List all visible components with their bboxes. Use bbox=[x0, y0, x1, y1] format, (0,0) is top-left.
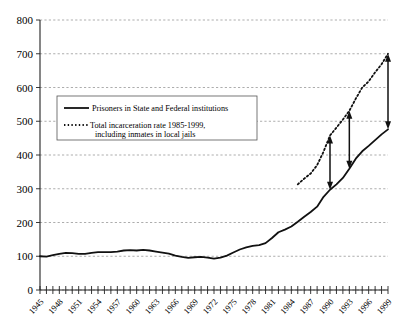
x-tick-label: 1978 bbox=[239, 297, 258, 316]
chart-container: 0100200300400500600700800 19451948195119… bbox=[0, 0, 394, 329]
series-total-incarceration-rate bbox=[298, 54, 388, 185]
gridlines bbox=[40, 20, 388, 290]
y-tick-label: 200 bbox=[17, 217, 34, 229]
x-tick-label: 1954 bbox=[85, 296, 104, 316]
gap-arrow-1999 bbox=[385, 54, 391, 130]
gap-annotation-arrows bbox=[327, 54, 391, 190]
x-tick-label: 1975 bbox=[220, 297, 239, 316]
x-tick-label: 1987 bbox=[297, 297, 316, 316]
incarceration-rate-line-chart: 0100200300400500600700800 19451948195119… bbox=[0, 0, 394, 329]
y-tick-label: 600 bbox=[17, 82, 34, 94]
x-axis-tick-labels: 1945194819511954195719601963196619691972… bbox=[27, 296, 394, 316]
y-tick-label: 300 bbox=[17, 183, 34, 195]
y-axis-tick-labels: 0100200300400500600700800 bbox=[17, 14, 34, 296]
y-tick-label: 100 bbox=[17, 250, 34, 262]
x-tick-label: 1966 bbox=[162, 297, 181, 316]
legend-label-total-rate-line2: including inmates in local jails bbox=[95, 130, 196, 139]
x-tick-label: 1981 bbox=[259, 297, 278, 316]
series-prisoners-state-federal bbox=[40, 129, 388, 258]
y-tick-label: 400 bbox=[17, 149, 34, 161]
chart-legend: Prisoners in State and Federal instituti… bbox=[57, 96, 257, 140]
x-tick-label: 1999 bbox=[375, 297, 394, 316]
x-tick-label: 1969 bbox=[181, 297, 200, 316]
x-tick-label: 1960 bbox=[123, 297, 142, 316]
x-tick-label: 1945 bbox=[27, 297, 46, 316]
y-tick-label: 500 bbox=[17, 115, 34, 127]
y-tick-label: 700 bbox=[17, 48, 34, 60]
x-tick-label: 1948 bbox=[46, 297, 65, 316]
x-tick-label: 1957 bbox=[104, 297, 123, 316]
x-tick-label: 1984 bbox=[278, 296, 297, 316]
x-tick-label: 1951 bbox=[65, 297, 84, 316]
gap-arrow-1990 bbox=[327, 135, 333, 189]
y-axis-ticks bbox=[36, 20, 40, 290]
legend-label-prisoners: Prisoners in State and Federal instituti… bbox=[92, 104, 228, 113]
x-tick-label: 1996 bbox=[355, 297, 374, 316]
legend-label-total-rate-line1: Total incarceration rate 1985-1999, bbox=[90, 121, 205, 130]
y-tick-label: 800 bbox=[17, 14, 34, 26]
x-tick-label: 1990 bbox=[317, 297, 336, 316]
x-tick-label: 1963 bbox=[143, 297, 162, 316]
x-tick-label: 1993 bbox=[336, 297, 355, 316]
gap-arrow-1993 bbox=[346, 111, 352, 169]
y-tick-label: 0 bbox=[28, 284, 34, 296]
x-tick-label: 1972 bbox=[201, 297, 220, 316]
